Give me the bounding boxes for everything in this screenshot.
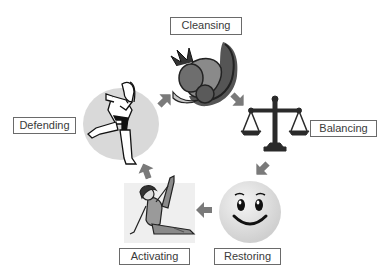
label-activating: Activating [119, 248, 190, 265]
label-balancing: Balancing [310, 120, 377, 137]
arrow-balancing-to-restoring-icon [251, 158, 274, 181]
karate-kick-icon [86, 80, 158, 168]
label-cleansing: Cleansing [170, 17, 242, 35]
stretching-person-icon [118, 172, 202, 244]
label-defending: Defending [13, 117, 76, 134]
smiley-face-icon [218, 180, 282, 244]
label-restoring: Restoring [214, 248, 281, 265]
arrow-restoring-to-activating-icon [196, 202, 212, 218]
balance-scale-icon [240, 95, 310, 153]
